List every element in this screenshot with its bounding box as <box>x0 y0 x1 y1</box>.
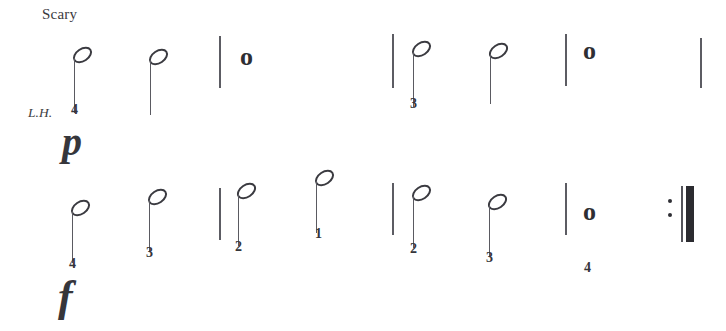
barline <box>700 38 702 88</box>
fingering-number: 1 <box>315 227 322 241</box>
fingering-number: 4 <box>69 257 76 271</box>
thick-barline <box>686 186 694 242</box>
whole-note-glyph: o <box>583 199 596 225</box>
repeat-dot-icon <box>668 199 672 203</box>
note-stem <box>490 54 492 104</box>
music-score-sheet: Scary L.H. p f 4 o 3 <box>0 0 726 331</box>
fingering-number: 4 <box>584 261 591 275</box>
whole-note-glyph: o <box>240 44 253 70</box>
barline <box>565 34 567 86</box>
dynamic-piano-marking: p <box>62 122 82 162</box>
fingering-number: 3 <box>410 97 417 111</box>
fingering-number: 3 <box>146 246 153 260</box>
barline <box>219 188 221 240</box>
left-hand-indication-label: L.H. <box>28 105 52 121</box>
fingering-number: 3 <box>486 251 493 265</box>
barline <box>219 36 221 88</box>
fingering-number: 4 <box>71 103 78 117</box>
fingering-number: 2 <box>235 240 242 254</box>
thin-barline <box>681 186 683 242</box>
dynamic-forte-marking: f <box>58 275 73 319</box>
whole-note-glyph: o <box>583 38 596 64</box>
repeat-dot-icon <box>668 213 672 217</box>
note-stem <box>150 60 152 115</box>
fingering-number: 2 <box>410 242 417 256</box>
barline <box>565 183 567 235</box>
tempo-expression-label: Scary <box>42 6 77 23</box>
barline <box>392 183 394 235</box>
barline <box>392 34 394 88</box>
